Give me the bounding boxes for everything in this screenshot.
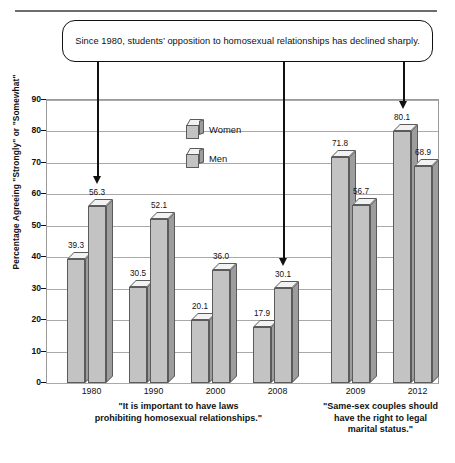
callout-arrow-2008	[283, 62, 285, 266]
y-tick-label: 30	[31, 283, 41, 293]
chart-figure: Since 1980, students’ opposition to homo…	[0, 0, 455, 463]
y-tick-label: 60	[31, 188, 41, 198]
y-tick-label: 70	[31, 157, 41, 167]
y-tick-label: 20	[31, 314, 41, 324]
callout-arrow-1980	[97, 62, 99, 184]
arrow-shaft	[403, 62, 405, 102]
cube-face	[199, 119, 204, 135]
bar-value-label: 20.1	[192, 302, 208, 311]
x-tick-label-1980: 1980	[82, 386, 102, 396]
callout-text: Since 1980, students’ opposition to homo…	[75, 36, 420, 46]
bar-side-face	[106, 199, 113, 383]
cube-face	[199, 148, 204, 164]
gridline	[47, 100, 438, 101]
group-caption-line: have the right to legal	[306, 413, 455, 425]
y-tick-label: 90	[31, 94, 41, 104]
bar-value-label: 30.5	[130, 269, 146, 278]
bar-front-face	[414, 166, 432, 383]
bar-value-label: 71.8	[332, 139, 348, 148]
bar-men-2000	[212, 270, 230, 383]
legend-swatch-cube-icon	[186, 148, 203, 169]
bar-front-face	[212, 270, 230, 383]
bar-value-label: 52.1	[151, 201, 167, 210]
bar-women-2012	[393, 131, 411, 383]
y-tick-label: 80	[31, 125, 41, 135]
legend-label: Men	[209, 153, 227, 164]
arrow-head-icon	[279, 258, 287, 266]
bar-front-face	[150, 219, 168, 383]
bar-front-face	[274, 288, 292, 383]
bar-value-label: 56.3	[89, 188, 105, 197]
bar-value-label: 80.1	[394, 113, 410, 122]
bar-front-face	[352, 205, 370, 383]
y-tick-label: 50	[31, 220, 41, 230]
bar-front-face	[253, 327, 271, 383]
bar-women-2000	[191, 320, 209, 383]
bar-men-2008	[274, 288, 292, 383]
bar-front-face	[191, 320, 209, 383]
callout-arrow-2012	[403, 62, 405, 109]
bar-value-label: 36.0	[213, 252, 229, 261]
bar-value-label: 30.1	[275, 270, 291, 279]
bar-men-2009	[352, 205, 370, 383]
bar-side-face	[230, 263, 237, 383]
arrow-head-icon	[93, 176, 101, 184]
group-caption-line: "Same-sex couples should	[306, 401, 455, 413]
legend-item-women: Women	[186, 119, 241, 140]
y-tick-label: 40	[31, 251, 41, 261]
bar-value-label: 68.9	[415, 148, 431, 157]
x-tick-label-2008: 2008	[268, 386, 288, 396]
top-divider-rule	[15, 10, 437, 12]
arrow-shaft	[97, 62, 99, 177]
arrow-shaft	[283, 62, 285, 259]
bar-side-face	[432, 159, 439, 383]
bar-front-face	[129, 287, 147, 383]
bar-men-2012	[414, 166, 432, 383]
bar-front-face	[393, 131, 411, 383]
bar-front-face	[67, 259, 85, 383]
bar-women-2008	[253, 327, 271, 383]
bar-women-1990	[129, 287, 147, 383]
group-caption-1: "Same-sex couples shouldhave the right t…	[306, 401, 455, 436]
x-tick-label-1990: 1990	[144, 386, 164, 396]
bar-women-1980	[67, 259, 85, 383]
cube-face	[186, 125, 199, 139]
bar-side-face	[168, 212, 175, 383]
x-tick-label-2012: 2012	[408, 386, 428, 396]
bar-value-label: 39.3	[68, 241, 84, 250]
x-tick-label-2000: 2000	[206, 386, 226, 396]
arrow-head-icon	[399, 101, 407, 109]
cube-face	[186, 154, 199, 168]
group-caption-line: marital status."	[306, 424, 455, 436]
y-axis-label: Percentage Agreeing "Strongly" or "Somew…	[11, 74, 21, 270]
bar-value-label: 56.7	[353, 187, 369, 196]
legend-swatch-cube-icon	[186, 119, 203, 140]
bar-front-face	[88, 206, 106, 383]
bar-men-1980	[88, 206, 106, 383]
y-tick-label: 10	[31, 346, 41, 356]
group-caption-0: "It is important to have lawsprohibiting…	[74, 401, 284, 424]
bar-side-face	[370, 198, 377, 383]
bar-front-face	[331, 157, 349, 383]
chart-legend: WomenMen	[186, 119, 276, 179]
legend-label: Women	[209, 124, 241, 135]
bar-men-1990	[150, 219, 168, 383]
bar-value-label: 17.9	[254, 309, 270, 318]
legend-item-men: Men	[186, 148, 227, 169]
group-caption-line: prohibiting homosexual relationships."	[74, 413, 284, 425]
callout-box: Since 1980, students’ opposition to homo…	[62, 20, 433, 62]
bar-women-2009	[331, 157, 349, 383]
gridline	[47, 194, 438, 195]
x-tick-label-2009: 2009	[346, 386, 366, 396]
group-caption-line: "It is important to have laws	[74, 401, 284, 413]
bar-side-face	[292, 281, 299, 383]
